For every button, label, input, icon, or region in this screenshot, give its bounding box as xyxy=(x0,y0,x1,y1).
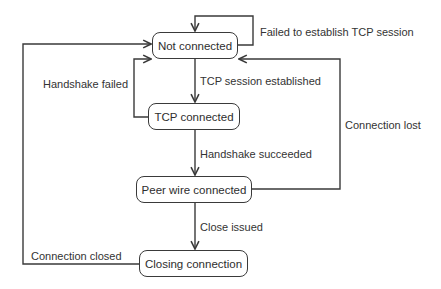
state-peer-wire-connected: Peer wire connected xyxy=(136,176,252,203)
label-connection-closed: Connection closed xyxy=(31,250,122,262)
edge-connection-closed xyxy=(23,44,151,264)
state-label: Closing connection xyxy=(145,258,242,270)
label-tcp-established: TCP session established xyxy=(200,75,321,87)
label-handshake-failed: Handshake failed xyxy=(43,78,128,90)
state-tcp-connected: TCP connected xyxy=(148,103,240,130)
state-label: Peer wire connected xyxy=(142,184,247,196)
label-handshake-succeeded: Handshake succeeded xyxy=(200,148,312,160)
label-connection-lost: Connection lost xyxy=(345,119,421,131)
state-label: TCP connected xyxy=(154,111,233,123)
state-not-connected: Not connected xyxy=(152,32,238,59)
state-label: Not connected xyxy=(158,40,232,52)
state-closing-connection: Closing connection xyxy=(139,250,248,277)
label-failed-tcp: Failed to establish TCP session xyxy=(260,26,414,38)
label-close-issued: Close issued xyxy=(200,221,263,233)
